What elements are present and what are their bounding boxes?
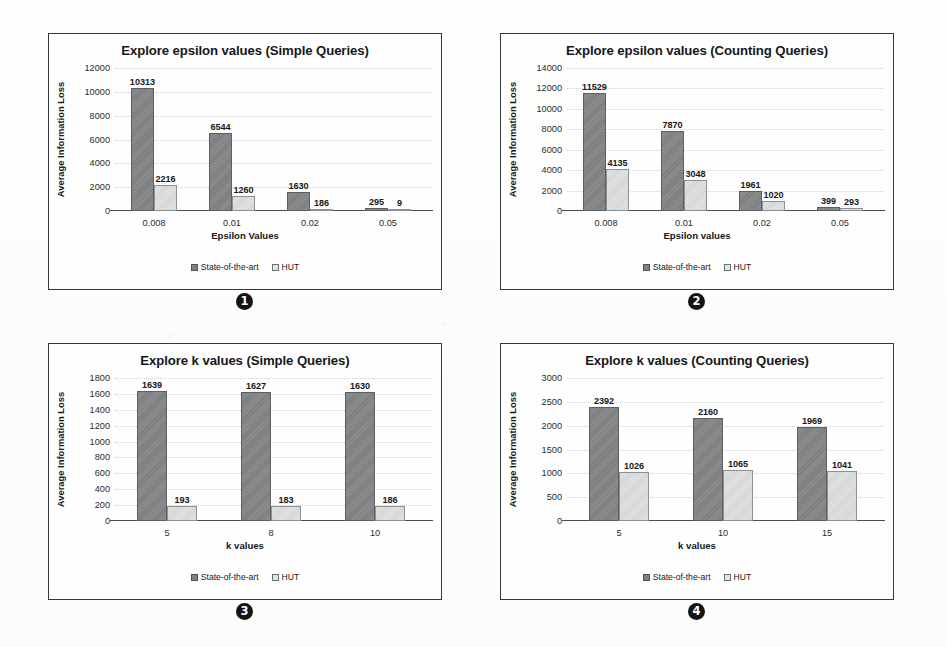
chart-panel-1: Explore epsilon values (Simple Queries) … [48, 33, 442, 290]
bar[interactable]: 1026 [619, 472, 649, 521]
bar[interactable]: 1961 [739, 191, 762, 211]
chart-panel-2: Explore epsilon values (Counting Queries… [500, 33, 894, 290]
legend: State-of-the-art HUT [49, 572, 441, 582]
bar[interactable]: 4135 [606, 169, 629, 211]
bar-group: 654412600.01 [193, 68, 271, 211]
y-axis-label: Average Information Loss [507, 378, 521, 521]
legend-item-hut[interactable]: HUT [724, 262, 752, 272]
bar-group: 1031322160.008 [115, 68, 193, 211]
legend-item-state-of-the-art[interactable]: State-of-the-art [643, 262, 711, 272]
legend-item-hut[interactable]: HUT [272, 572, 300, 582]
legend-swatch-light-icon [724, 264, 731, 271]
bar[interactable]: 1630 [345, 392, 375, 521]
bar[interactable]: 3048 [684, 180, 707, 211]
bar-value-label: 2216 [155, 174, 175, 184]
legend-swatch-dark-icon [643, 264, 650, 271]
bar[interactable]: 186 [375, 506, 405, 521]
y-axis-tick: 1800 [90, 373, 110, 383]
y-axis-tick: 2500 [542, 397, 562, 407]
legend-item-hut[interactable]: HUT [272, 262, 300, 272]
bar-value-label: 183 [278, 495, 293, 505]
bar[interactable]: 183 [271, 506, 301, 521]
bar[interactable]: 1639 [137, 391, 167, 521]
bar[interactable]: 1020 [762, 201, 785, 211]
bar[interactable]: 7870 [661, 131, 684, 211]
y-axis-tick: 500 [547, 492, 562, 502]
bar-value-label: 1627 [246, 381, 266, 391]
bar[interactable]: 2160 [693, 418, 723, 521]
legend-swatch-light-icon [272, 574, 279, 581]
x-axis-label: Epsilon Values [49, 230, 441, 241]
bar-value-label: 9 [397, 198, 402, 208]
y-axis-tick: 10000 [536, 104, 562, 114]
bar[interactable]: 1627 [241, 392, 271, 521]
bar[interactable]: 1630 [287, 192, 310, 211]
x-axis-label: k values [49, 540, 441, 551]
bar[interactable]: 293 [840, 208, 863, 211]
bar[interactable]: 1041 [827, 471, 857, 521]
chart-panel-3: Explore k values (Simple Queries) Averag… [48, 343, 442, 600]
x-axis-tick: 5 [567, 528, 671, 538]
x-axis-tick: 0.008 [115, 218, 193, 228]
legend-item-hut[interactable]: HUT [724, 572, 752, 582]
bar[interactable]: 399 [817, 207, 840, 211]
legend-item-state-of-the-art[interactable]: State-of-the-art [191, 572, 259, 582]
y-axis-tick: 0 [557, 516, 562, 526]
x-axis-tick: 0.008 [567, 218, 645, 228]
bar-group: 16301860.02 [271, 68, 349, 211]
bar[interactable]: 2392 [589, 407, 619, 521]
y-axis-tick: 8000 [542, 124, 562, 134]
legend-swatch-light-icon [272, 264, 279, 271]
y-axis-tick: 4000 [90, 158, 110, 168]
bar-groups: 1152941350.008787030480.01196110200.0239… [567, 68, 879, 211]
y-axis-tick: 400 [95, 484, 110, 494]
y-axis-tick: 1000 [542, 468, 562, 478]
legend-swatch-light-icon [724, 574, 731, 581]
y-axis-tick: 4000 [542, 165, 562, 175]
bar-group: 239210265 [567, 378, 671, 521]
legend: State-of-the-art HUT [49, 262, 441, 272]
bar[interactable]: 9 [388, 209, 411, 211]
bar[interactable]: 193 [167, 506, 197, 521]
bar[interactable]: 1260 [232, 196, 255, 211]
bar-groups: 23921026521601065101969104115 [567, 378, 879, 521]
legend-label: HUT [282, 572, 300, 582]
x-axis-tick: 10 [323, 528, 427, 538]
legend-label: State-of-the-art [201, 262, 259, 272]
y-axis-tick: 2000 [542, 421, 562, 431]
y-axis-tick: 1500 [542, 445, 562, 455]
legend-label: HUT [282, 262, 300, 272]
bar-group: 1152941350.008 [567, 68, 645, 211]
y-axis-label: Average Information Loss [55, 378, 69, 521]
bar-group: 16271838 [219, 378, 323, 521]
x-axis-tick: 0.01 [193, 218, 271, 228]
bar[interactable]: 2216 [154, 185, 177, 211]
bar[interactable]: 6544 [209, 133, 232, 211]
bar[interactable]: 1065 [723, 470, 753, 521]
figure-badge-4: 4 [688, 603, 705, 620]
bar[interactable]: 10313 [131, 88, 154, 211]
bar[interactable]: 1969 [797, 427, 827, 521]
legend-label: HUT [734, 262, 752, 272]
bar-value-label: 295 [369, 197, 384, 207]
legend-label: State-of-the-art [653, 262, 711, 272]
y-axis-tick: 1200 [90, 421, 110, 431]
legend-item-state-of-the-art[interactable]: State-of-the-art [643, 572, 711, 582]
bar-value-label: 1065 [728, 459, 748, 469]
y-axis-tick: 12000 [536, 83, 562, 93]
x-axis-tick: 5 [115, 528, 219, 538]
bar[interactable]: 11529 [583, 93, 606, 211]
legend: State-of-the-art HUT [501, 262, 893, 272]
plot-area: 1400012000100008000600040002000011529413… [567, 68, 879, 211]
legend-swatch-dark-icon [191, 574, 198, 581]
bar-value-label: 1969 [802, 416, 822, 426]
bar-group: 16391935 [115, 378, 219, 521]
legend-label: State-of-the-art [653, 572, 711, 582]
y-axis-tick: 800 [95, 452, 110, 462]
figure-badge-2: 2 [688, 293, 705, 310]
bar[interactable]: 295 [365, 208, 388, 212]
bar[interactable]: 186 [310, 209, 333, 211]
legend-item-state-of-the-art[interactable]: State-of-the-art [191, 262, 259, 272]
bar-group: 2160106510 [671, 378, 775, 521]
y-axis-tick: 1600 [90, 389, 110, 399]
